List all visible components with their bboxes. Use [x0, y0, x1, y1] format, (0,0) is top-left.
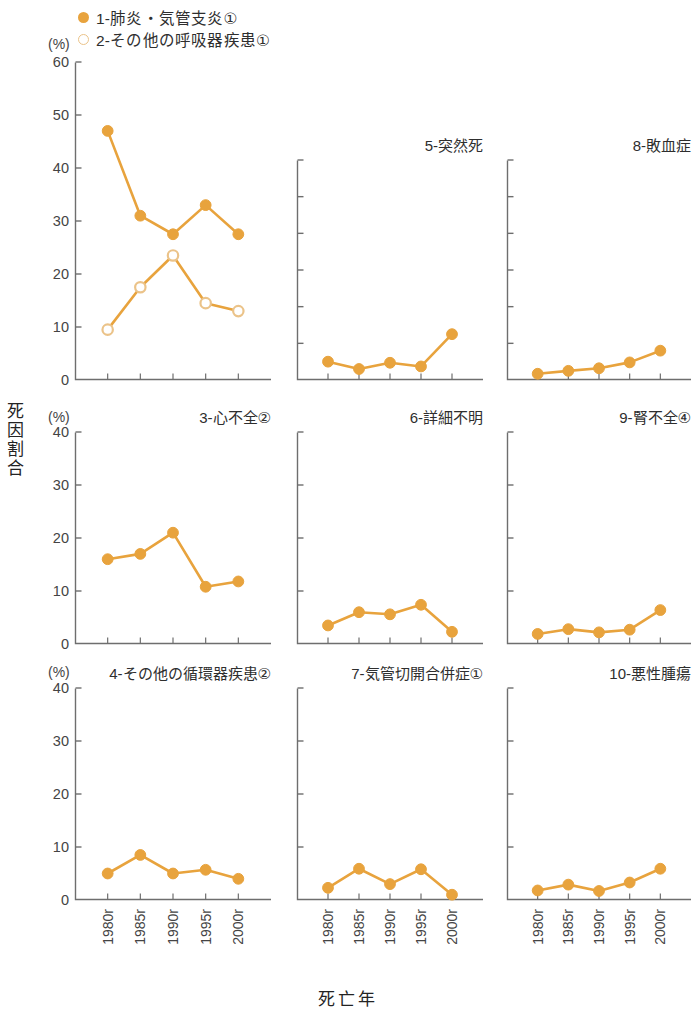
data-point-1-0-1990r	[168, 229, 179, 240]
panel-title-7: 7-気管切開合併症①	[297, 662, 483, 683]
data-point-10-0-1985r	[563, 879, 574, 890]
x-tick-label-10-1980r: 1980r	[530, 909, 546, 945]
legend-item-2: 2-その他の呼吸器疾患①	[78, 28, 398, 50]
data-point-4-0-1985r	[135, 850, 146, 861]
x-tick-label-7-2000r: 2000r	[444, 909, 460, 945]
y-tick-label-3-40: 40	[53, 424, 69, 440]
plot-area-9	[507, 432, 691, 644]
plot-area-5	[297, 160, 483, 380]
panel-title-10: 10-悪性腫瘍	[507, 662, 691, 683]
panel-title-3: 3-心不全②	[75, 406, 271, 427]
data-point-1-0-1995r	[200, 200, 211, 211]
data-point-8-0-2000r	[655, 345, 666, 356]
data-point-5-0-1980r	[323, 356, 334, 367]
data-point-3-0-1985r	[135, 549, 146, 560]
legend-item-1-label: 1-肺炎・気管支炎①	[96, 6, 238, 28]
panel-title-5: 5-突然死	[297, 134, 483, 155]
y-tick-label-1-40: 40	[53, 160, 69, 176]
data-point-1-1-1985r	[135, 282, 145, 292]
x-tick-label-4-2000r: 2000r	[230, 909, 246, 945]
x-tick-label-7-1985r: 1985r	[351, 909, 367, 945]
chart-panel-3: 3-心不全②010203040	[75, 432, 271, 644]
data-point-7-0-1990r	[385, 879, 396, 890]
x-tick-label-7-1990r: 1990r	[382, 909, 398, 945]
x-tick-label-10-1995r: 1995r	[622, 909, 638, 945]
data-point-8-0-1985r	[563, 365, 574, 376]
legend-item-1: 1-肺炎・気管支炎①	[78, 6, 398, 28]
data-point-9-0-1990r	[594, 627, 605, 638]
data-point-1-0-1980r	[102, 126, 113, 137]
data-point-5-0-2000r	[447, 329, 458, 340]
data-point-1-0-1985r	[135, 210, 146, 221]
chart-panel-5: 5-突然死	[297, 160, 483, 380]
legend-item-2-label: 2-その他の呼吸器疾患①	[96, 28, 270, 50]
plot-area-4	[75, 688, 271, 900]
unit-label-row3: (%)	[48, 664, 70, 680]
data-point-9-0-2000r	[655, 605, 666, 616]
y-tick-label-4-40: 40	[53, 680, 69, 696]
series-line-3-0	[108, 533, 239, 587]
data-point-3-0-1995r	[200, 581, 211, 592]
series-line-1-1	[108, 255, 239, 329]
chart-panel-6: 6-詳細不明	[297, 432, 483, 644]
data-point-8-0-1990r	[594, 363, 605, 374]
y-tick-label-3-30: 30	[53, 477, 69, 493]
data-point-5-0-1990r	[385, 357, 396, 368]
data-point-4-0-1980r	[102, 868, 113, 879]
x-tick-label-4-1980r: 1980r	[100, 909, 116, 945]
chart-panel-1: 0102030405060	[75, 62, 271, 380]
x-tick-label-4-1995r: 1995r	[198, 909, 214, 945]
series-line-1-0	[108, 131, 239, 234]
y-tick-label-3-0: 0	[61, 636, 69, 652]
y-tick-label-3-10: 10	[53, 583, 69, 599]
x-axis-title: 死亡年	[0, 985, 695, 1010]
panel-title-4: 4-その他の循環器疾患②	[75, 662, 271, 683]
panel-title-8: 8-敗血症	[507, 134, 691, 155]
y-tick-label-4-0: 0	[61, 892, 69, 908]
panel-title-6: 6-詳細不明	[297, 406, 483, 427]
x-tick-label-7-1980r: 1980r	[320, 909, 336, 945]
x-tick-label-10-2000r: 2000r	[652, 909, 668, 945]
data-point-1-1-1995r	[200, 298, 210, 308]
data-point-3-0-1990r	[168, 527, 179, 538]
y-tick-label-1-30: 30	[53, 213, 69, 229]
data-point-4-0-2000r	[233, 873, 244, 884]
chart-panel-9: 9-腎不全④	[507, 432, 691, 644]
data-point-4-0-1995r	[200, 864, 211, 875]
plot-area-10	[507, 688, 691, 900]
x-tick-label-10-1990r: 1990r	[591, 909, 607, 945]
y-tick-label-4-30: 30	[53, 733, 69, 749]
y-axis-title: 死因割合	[2, 402, 26, 478]
y-tick-label-1-60: 60	[53, 54, 69, 70]
data-point-6-0-2000r	[447, 626, 458, 637]
data-point-1-0-2000r	[233, 229, 244, 240]
data-point-9-0-1985r	[563, 624, 574, 635]
filled-circle-marker-icon	[78, 12, 89, 23]
plot-area-8	[507, 160, 691, 380]
data-point-4-0-1990r	[168, 868, 179, 879]
x-tick-label-7-1995r: 1995r	[413, 909, 429, 945]
data-point-9-0-1980r	[532, 629, 543, 640]
plot-area-7	[297, 688, 483, 900]
chart-panel-10: 10-悪性腫瘍1980r1985r1990r1995r2000r	[507, 688, 691, 900]
data-point-10-0-1995r	[624, 877, 635, 888]
x-tick-label-4-1985r: 1985r	[132, 909, 148, 945]
chart-panel-4: 4-その他の循環器疾患②0102030401980r1985r1990r1995…	[75, 688, 271, 900]
y-tick-label-3-20: 20	[53, 530, 69, 546]
data-point-8-0-1980r	[532, 368, 543, 379]
unit-label-row1: (%)	[48, 36, 70, 52]
chart-panel-8: 8-敗血症	[507, 160, 691, 380]
data-point-6-0-1995r	[416, 599, 427, 610]
x-tick-label-4-1990r: 1990r	[165, 909, 181, 945]
plot-area-1	[75, 62, 271, 380]
chart-panel-7: 7-気管切開合併症①1980r1985r1990r1995r2000r	[297, 688, 483, 900]
x-tick-label-10-1985r: 1985r	[560, 909, 576, 945]
panel-title-9: 9-腎不全④	[507, 406, 691, 427]
data-point-9-0-1995r	[624, 624, 635, 635]
y-tick-label-1-0: 0	[61, 372, 69, 388]
data-point-3-0-1980r	[102, 554, 113, 565]
data-point-1-1-1980r	[102, 324, 112, 334]
y-tick-label-4-10: 10	[53, 839, 69, 855]
data-point-7-0-1980r	[323, 882, 334, 893]
y-tick-label-1-10: 10	[53, 319, 69, 335]
